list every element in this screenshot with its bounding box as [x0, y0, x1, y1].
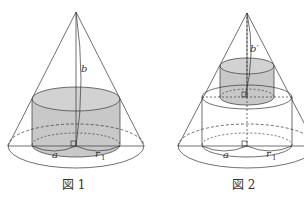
- figure-1: [8, 12, 144, 168]
- fig1-label-a: a: [52, 149, 58, 160]
- figure-1-caption: 図 1: [62, 175, 85, 192]
- figure-2-caption: 図 2: [232, 175, 255, 192]
- fig2-label-a: a: [223, 149, 229, 160]
- fig2-label-b-prime: b′: [250, 43, 259, 54]
- diagram-canvas: b a r 1 b′ a r 1: [0, 0, 304, 197]
- fig1-label-r-sub: 1: [101, 154, 105, 162]
- figure-2: [178, 13, 304, 168]
- fig1-label-b: b: [81, 63, 87, 74]
- fig2-label-r-sub: 1: [272, 154, 276, 162]
